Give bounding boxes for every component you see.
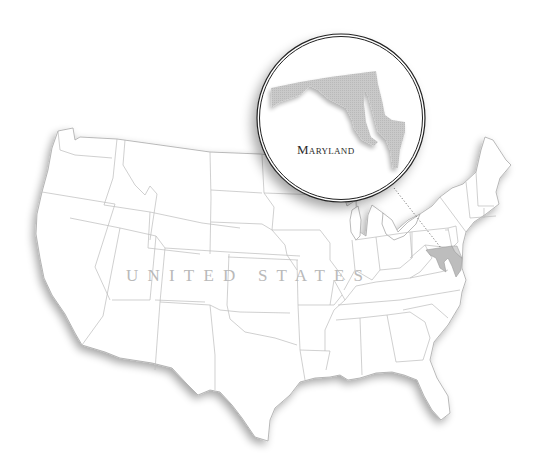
callout-magnifier	[257, 34, 425, 202]
country-label: UNITED STATES	[126, 266, 372, 286]
map-canvas	[0, 0, 544, 459]
us-map: UNITED STATES Maryland	[0, 0, 544, 459]
callout-state-label: Maryland	[297, 142, 354, 158]
